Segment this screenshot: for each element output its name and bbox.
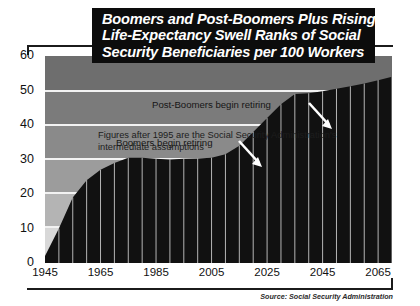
y-tick-label: 10: [8, 221, 34, 235]
frame-bottom-rule: [27, 288, 393, 290]
title-line-1: Boomers and Post-Boomers Plus Rising: [102, 11, 367, 27]
x-tick-label: 1965: [78, 266, 124, 278]
x-tick-label: 1985: [133, 266, 179, 278]
source-credit: Source: Social Security Administration: [260, 292, 393, 301]
y-tick-label: 20: [8, 186, 34, 200]
x-tick-label: 1945: [22, 266, 68, 278]
y-tick-label: 50: [8, 83, 34, 97]
post-boomers-arrow: [309, 103, 332, 129]
y-tick-label: 60: [8, 48, 34, 62]
chart-figure: Boomers and Post-Boomers Plus Rising Lif…: [0, 0, 420, 306]
y-tick-label: 30: [8, 152, 34, 166]
title-line-3: Security Beneficiaries per 100 Workers: [102, 44, 367, 60]
x-tick-label: 2005: [189, 266, 235, 278]
y-tick-label: 40: [8, 117, 34, 131]
x-tick-label: 2065: [355, 266, 401, 278]
boomers-arrow: [239, 141, 262, 167]
chart-title: Boomers and Post-Boomers Plus Rising Lif…: [92, 8, 375, 63]
title-line-2: Life-Expectancy Swell Ranks of Social: [102, 27, 367, 43]
annotation-arrows: [45, 56, 392, 263]
x-tick-label: 2025: [244, 266, 290, 278]
frame-bottom-right-tick: [391, 278, 393, 290]
x-tick-label: 2045: [300, 266, 346, 278]
